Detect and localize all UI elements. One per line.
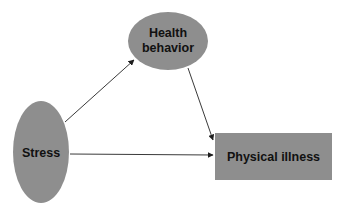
edge-health-behavior-to-physical-illness (188, 68, 213, 140)
edge-stress-to-physical-illness (70, 154, 213, 155)
physical-illness-label: Physical illness (227, 150, 320, 164)
edge-stress-to-health-behavior (65, 60, 134, 122)
health-behavior-label-line2: behavior (142, 41, 194, 55)
health-behavior-label-line1: Health (149, 26, 187, 40)
path-diagram: Stress Health behavior Physical illness (0, 0, 339, 215)
node-stress: Stress (13, 101, 69, 203)
stress-label: Stress (22, 146, 60, 160)
node-physical-illness: Physical illness (215, 133, 332, 180)
node-health-behavior: Health behavior (128, 12, 208, 70)
